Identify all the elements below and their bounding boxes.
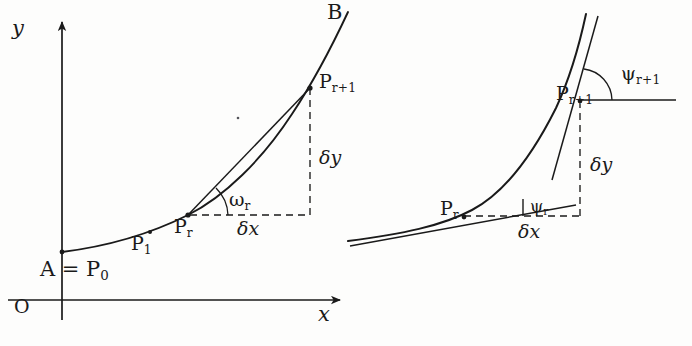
point-label-pr1-left: Pr+1 (319, 72, 356, 91)
point-p1-text: P (131, 232, 144, 254)
point-pr1-subscript-left: r+1 (332, 81, 356, 95)
point-marker-pr-right (462, 215, 467, 220)
point-label-pr-left: Pr (174, 217, 193, 236)
angle-label-psi-r: ψr (530, 198, 549, 215)
delta-y-label-left: δy (319, 148, 341, 167)
point-pr-text-left: P (174, 215, 187, 237)
curve-start-label-A-P0: A = P0 (40, 259, 109, 280)
right-curve (348, 14, 586, 241)
left-curve-AB (62, 12, 348, 252)
point-marker-pr1-left (307, 85, 312, 90)
diagram-canvas (0, 0, 692, 346)
angle-label-omega-r: ωr (229, 190, 251, 209)
angle-psi-r-text: ψ (530, 196, 543, 216)
angle-label-psi-r1: ψr+1 (621, 64, 660, 83)
delta-x-label-right: δx (518, 222, 540, 241)
point-pr1-text-right: P (556, 82, 569, 104)
point-label-pr-right: Pr (440, 199, 459, 218)
angle-psi-r1-text: ψ (621, 62, 636, 84)
y-axis-label: y (12, 18, 24, 39)
stray-ink-dot (237, 117, 240, 120)
figure-root: y x O B A = P0 P1 Pr Pr+1 ωr δx δy Pr Pr… (0, 0, 692, 346)
point-marker-a-p0-left (60, 250, 65, 255)
point-pr-subscript-right: r (453, 208, 459, 222)
angle-omega-text: ω (229, 188, 245, 210)
delta-x-label-left: δx (237, 219, 259, 238)
angle-omega-subscript: r (245, 199, 251, 213)
x-axis-label: x (318, 304, 330, 325)
curve-start-subscript: 0 (100, 268, 109, 283)
delta-y-label-right: δy (590, 155, 612, 174)
point-pr-subscript-left: r (187, 226, 193, 240)
angle-psi-r-subscript: r (543, 205, 548, 218)
left-diagram-group (60, 12, 348, 254)
point-pr-text-right: P (440, 197, 453, 219)
point-pr1-text-left: P (319, 70, 332, 92)
curve-start-text: A = P (40, 257, 100, 281)
curve-end-label-B: B (327, 2, 342, 23)
point-p1-subscript: 1 (144, 243, 152, 257)
point-label-p1: P1 (131, 234, 152, 253)
point-pr1-subscript-right: r+1 (569, 93, 593, 107)
point-label-pr1-right: Pr+1 (556, 84, 593, 103)
origin-label: O (14, 297, 30, 316)
right-diagram-group (348, 14, 676, 246)
angle-psi-r1-subscript: r+1 (636, 73, 660, 87)
